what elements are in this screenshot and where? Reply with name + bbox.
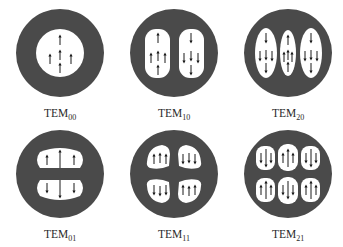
mode-tem20: TEM20 xyxy=(244,9,332,122)
mode-label: TEM20 xyxy=(272,107,304,122)
mode-tem11: TEM11 xyxy=(130,130,218,243)
beam-ring xyxy=(130,9,218,97)
mode-tem01: TEM01 xyxy=(16,130,104,243)
mode-tem10: TEM10 xyxy=(130,9,218,122)
mode-label: TEM21 xyxy=(272,228,304,243)
mode-label: TEM01 xyxy=(44,228,76,243)
mode-label: TEM11 xyxy=(158,228,190,243)
mode-tem21: TEM21 xyxy=(244,130,332,243)
beam-ring xyxy=(244,130,332,218)
mode-label: TEM00 xyxy=(44,107,76,122)
beam-ring xyxy=(130,130,218,218)
tem-mode-diagram: TEM00 TEM10 xyxy=(0,0,343,247)
mode-tem00: TEM00 xyxy=(16,9,104,122)
mode-label: TEM10 xyxy=(158,107,190,122)
beam-ring xyxy=(16,130,104,218)
